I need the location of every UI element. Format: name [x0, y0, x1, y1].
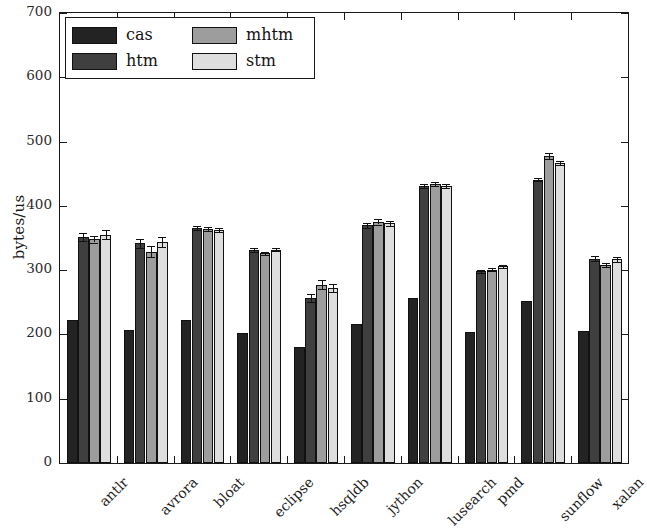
error-bar-cap: [556, 165, 564, 166]
error-bar-cap: [545, 159, 553, 160]
bar: [157, 242, 168, 463]
bar: [181, 320, 192, 463]
error-bar-cap: [477, 273, 485, 274]
x-tick-mark: [458, 13, 459, 20]
bar: [441, 186, 452, 463]
error-bar-cap: [158, 237, 166, 238]
y-tick-mark: [621, 463, 628, 464]
error-bar-cap: [272, 248, 280, 249]
legend-entry-cas[interactable]: cas: [72, 27, 188, 44]
x-tick-label: hsqldb: [327, 474, 372, 519]
error-bar-cap: [318, 280, 326, 281]
y-tick-mark: [60, 206, 67, 207]
legend-swatch-htm: [72, 53, 117, 70]
error-bar-cap: [499, 265, 507, 266]
x-tick-label: eclipse: [271, 474, 317, 520]
error-bar-cap: [193, 230, 201, 231]
y-tick-label: 100: [18, 391, 52, 405]
x-tick-label: pmd: [493, 474, 526, 507]
y-tick-mark: [60, 334, 67, 335]
legend-label-cas: cas: [126, 27, 153, 43]
error-bar-cap: [613, 257, 621, 258]
error-bar-cap: [79, 241, 87, 242]
error-bar: [151, 246, 152, 258]
error-bar-cap: [374, 219, 382, 220]
error-bar-cap: [420, 184, 428, 185]
bar: [214, 230, 225, 463]
error-bar-cap: [90, 243, 98, 244]
error-bar: [140, 239, 141, 248]
error-bar-cap: [534, 178, 542, 179]
error-bar: [162, 237, 163, 247]
x-tick-mark: [401, 13, 402, 20]
y-tick-label: 500: [18, 134, 52, 148]
y-tick-mark: [60, 13, 67, 14]
bar: [384, 223, 395, 463]
bar: [419, 186, 430, 463]
error-bar-cap: [147, 257, 155, 258]
error-bar-cap: [79, 233, 87, 234]
error-bar-cap: [329, 292, 337, 293]
error-bar-cap: [591, 256, 599, 257]
bar: [305, 298, 316, 463]
x-tick-mark: [287, 456, 288, 463]
bar: [78, 237, 89, 463]
bar: [498, 266, 509, 463]
y-tick-label: 0: [18, 455, 52, 469]
bar: [89, 239, 100, 463]
x-axis-tick-labels: antlravrorabloateclipsehsqldbjythonlusea…: [59, 468, 629, 515]
legend-entry-stm[interactable]: stm: [192, 53, 308, 70]
bar: [612, 259, 623, 463]
y-tick-label: 300: [18, 262, 52, 276]
legend-swatch-stm: [192, 53, 237, 70]
bar: [555, 163, 566, 463]
error-bar-cap: [204, 231, 212, 232]
legend-swatch-cas: [72, 27, 117, 44]
bar: [600, 265, 611, 463]
error-bar-cap: [147, 246, 155, 247]
bar: [362, 225, 373, 463]
y-tick-mark: [60, 463, 67, 464]
error-bar: [83, 233, 84, 241]
bar: [544, 156, 555, 463]
bar: [487, 270, 498, 464]
error-bar-cap: [136, 239, 144, 240]
error-bar-cap: [591, 261, 599, 262]
x-tick-label: lusearch: [445, 474, 499, 528]
bar: [328, 288, 339, 463]
x-tick-mark: [344, 13, 345, 20]
error-bar-cap: [261, 252, 269, 253]
bar: [351, 324, 362, 463]
error-bar: [311, 294, 312, 302]
legend-entry-mhtm[interactable]: mhtm: [192, 27, 308, 44]
error-bar-cap: [307, 294, 315, 295]
y-tick-mark: [60, 270, 67, 271]
y-tick-label: 200: [18, 327, 52, 341]
x-tick-label: jython: [383, 474, 426, 517]
error-bar-cap: [261, 255, 269, 256]
x-tick-mark: [117, 456, 118, 463]
x-tick-mark: [401, 456, 402, 463]
bar: [135, 243, 146, 463]
error-bar: [333, 284, 334, 292]
error-bar-cap: [442, 188, 450, 189]
legend-entry-htm[interactable]: htm: [72, 53, 188, 70]
error-bar-cap: [215, 232, 223, 233]
x-tick-mark: [174, 456, 175, 463]
error-bar-cap: [136, 248, 144, 249]
x-tick-mark: [571, 456, 572, 463]
y-tick-mark: [621, 206, 628, 207]
error-bar-cap: [204, 227, 212, 228]
bar: [192, 228, 203, 463]
bar: [589, 259, 600, 463]
chart-legend: cas mhtm htm stm: [65, 17, 315, 79]
x-tick-mark: [344, 456, 345, 463]
error-bar-cap: [90, 236, 98, 237]
error-bar-cap: [499, 268, 507, 269]
y-tick-mark: [60, 142, 67, 143]
x-tick-label: antlr: [96, 474, 131, 509]
y-tick-label: 600: [18, 70, 52, 84]
bar: [316, 285, 327, 463]
error-bar-cap: [556, 161, 564, 162]
bar: [146, 252, 157, 464]
